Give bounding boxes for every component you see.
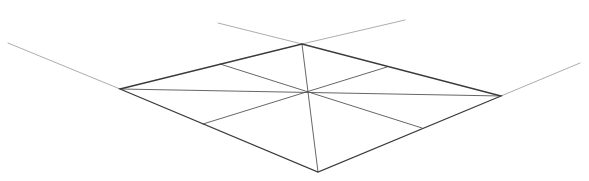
vertical-diagonal <box>302 44 318 172</box>
top-right-extension <box>302 20 405 44</box>
midline-b <box>203 67 387 124</box>
perspective-square-diagram <box>0 0 589 181</box>
top-left-extension <box>218 23 302 44</box>
left-extension <box>8 43 120 89</box>
right-extension <box>501 63 580 96</box>
extension-lines <box>8 20 580 96</box>
square-outline <box>120 44 501 172</box>
midline-a <box>220 64 422 128</box>
inner-lines <box>120 44 501 172</box>
